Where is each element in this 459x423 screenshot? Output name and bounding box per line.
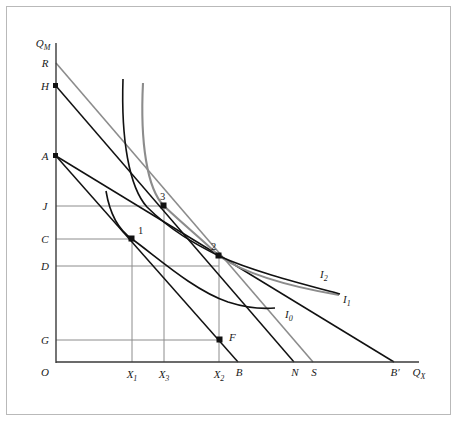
point-label-3: 3 — [160, 191, 165, 202]
point-marker-F — [217, 337, 223, 343]
x-tick-label-B-prime: B′ — [390, 366, 400, 378]
point-label-1: 1 — [138, 225, 143, 236]
x-tick-label-B: B — [236, 366, 243, 378]
curve-label-I0: I0 — [284, 308, 293, 323]
y-axis-labels: QM R H A J C D G O — [36, 37, 52, 378]
y-tick-label-C: C — [41, 233, 49, 245]
x-tick-label-X1: X1 — [126, 368, 138, 383]
point-labels: 1 2 3 F — [138, 191, 236, 343]
y-tick-label-D: D — [40, 260, 49, 272]
y-tick-label-J: J — [43, 200, 49, 212]
x-tick-label-N: N — [290, 366, 299, 378]
budget-line-A-B — [56, 156, 238, 362]
figure-frame: QM R H A J C D G O X1 X3 X2 B N S B′ QX … — [6, 6, 451, 415]
indifference-curves — [106, 79, 340, 308]
equilibrium-point-markers — [53, 83, 223, 343]
indifference-curve-I1 — [123, 79, 340, 294]
point-marker-1 — [129, 236, 135, 242]
indifference-curve-I2 — [142, 83, 339, 295]
axes — [56, 43, 419, 363]
y-tick-label-H: H — [40, 80, 50, 92]
y-axis-title: QM — [36, 37, 52, 52]
x-tick-label-X2: X2 — [213, 368, 225, 383]
curve-label-I2: I2 — [319, 268, 328, 283]
y-tick-label-R: R — [41, 57, 49, 69]
point-marker-A — [53, 153, 58, 158]
curve-label-I1: I1 — [342, 293, 351, 308]
point-marker-3 — [161, 203, 167, 209]
y-tick-label-A: A — [41, 150, 49, 162]
origin-label: O — [41, 366, 49, 378]
point-label-F: F — [228, 331, 236, 343]
budget-line-R-S — [56, 63, 313, 362]
x-axis-title: QX — [413, 366, 427, 381]
point-marker-H — [53, 83, 58, 88]
x-tick-label-X3: X3 — [158, 368, 170, 383]
indifference-curve-I0 — [106, 191, 275, 308]
point-label-2: 2 — [211, 241, 216, 252]
y-tick-label-G: G — [41, 334, 49, 346]
x-axis-labels: X1 X3 X2 B N S B′ QX — [126, 366, 427, 383]
budget-line-H-N — [56, 86, 294, 362]
x-tick-label-S: S — [311, 366, 317, 378]
budget-lines — [56, 63, 394, 362]
point-marker-2 — [216, 253, 222, 259]
indifference-curve-diagram: QM R H A J C D G O X1 X3 X2 B N S B′ QX … — [7, 7, 452, 416]
